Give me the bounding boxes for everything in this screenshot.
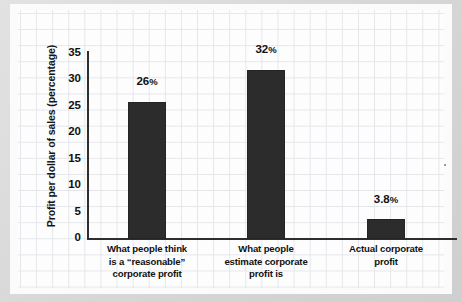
y-tick-label-20: 20 [55, 126, 81, 138]
bar-value-number-3: 3.8 [374, 193, 390, 205]
bar-value-label-2: 32% [226, 44, 306, 56]
y-tick-label-30: 30 [55, 73, 81, 85]
bar-value-label-1: 26% [107, 76, 187, 88]
category-label-2: What people estimate corporate profit is [206, 243, 326, 281]
chart-screenshot: Profit per dollar of sales (percentage) … [0, 0, 462, 302]
bar-value-number-1: 26 [136, 75, 149, 87]
category-label-2-line-1: What people [206, 243, 326, 256]
bar-value-percent-2: % [268, 44, 276, 55]
grid-paper-background: Profit per dollar of sales (percentage) … [18, 10, 444, 288]
category-label-1-line-1: What people think [87, 243, 207, 256]
scan-speck-artifact [444, 164, 446, 166]
figure-card: Profit per dollar of sales (percentage) … [10, 4, 452, 294]
y-tick-label-0: 0 [55, 232, 81, 244]
bar-what-people-think-reasonable [128, 102, 166, 240]
y-tick-label-25: 25 [55, 100, 81, 112]
category-label-3-line-2: profit [326, 256, 446, 269]
category-label-2-line-2: estimate corporate [206, 256, 326, 269]
bar-actual-corporate-profit [367, 219, 405, 239]
category-label-2-line-3: profit is [206, 268, 326, 281]
bar-what-people-estimate [247, 70, 285, 239]
y-tick-label-35: 35 [55, 47, 81, 59]
category-label-3-line-1: Actual corporate [326, 243, 446, 256]
category-label-1-line-2: is a “reasonable” [87, 256, 207, 269]
bar-value-label-3: 3.8% [346, 194, 426, 206]
y-tick-label-15: 15 [55, 153, 81, 165]
bar-value-percent-1: % [149, 76, 157, 87]
bar-value-percent-3: % [390, 194, 398, 205]
category-label-3: Actual corporate profit [326, 243, 446, 268]
bar-value-number-2: 32 [255, 43, 268, 55]
y-axis-line [87, 51, 89, 239]
y-tick-label-10: 10 [55, 179, 81, 191]
category-label-1-line-3: corporate profit [87, 268, 207, 281]
category-label-1: What people think is a “reasonable” corp… [87, 243, 207, 281]
y-tick-label-5: 5 [55, 206, 81, 218]
